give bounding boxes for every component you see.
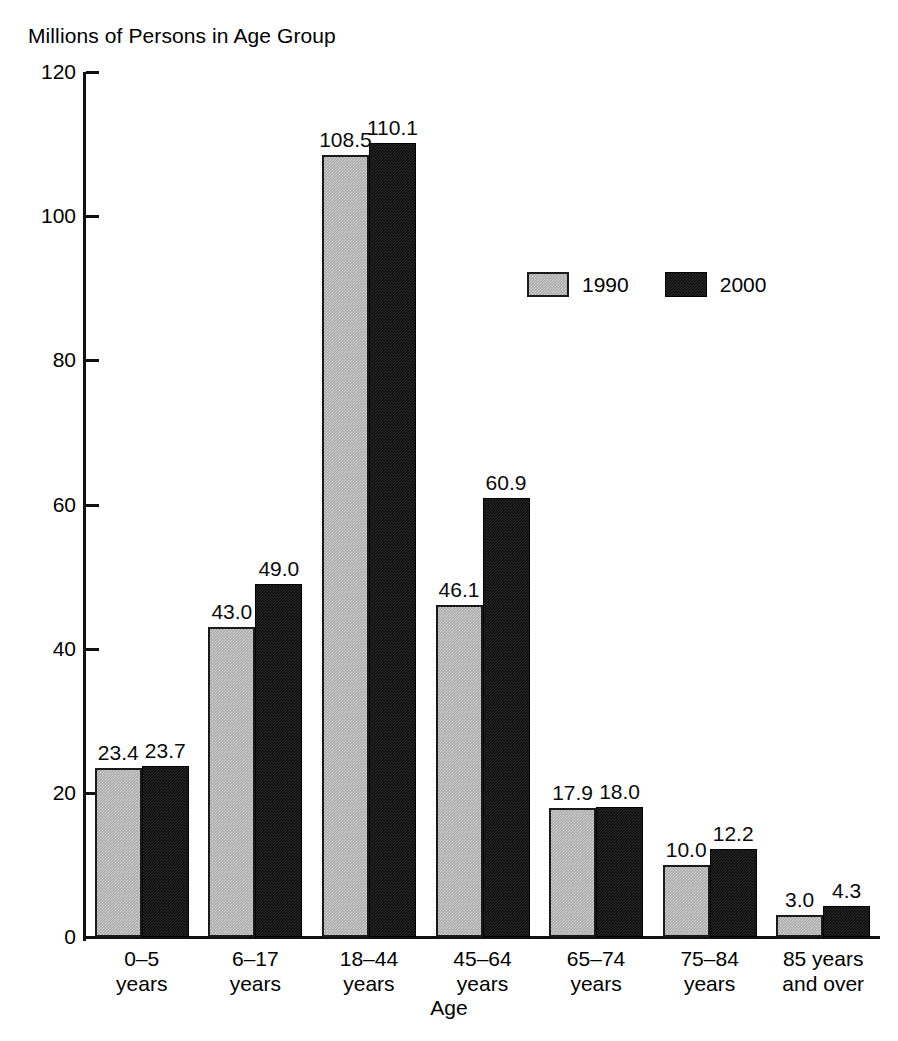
y-axis-tick — [86, 71, 99, 74]
y-axis-tick-label: 40 — [53, 638, 76, 659]
bar-value-label: 23.7 — [125, 740, 205, 762]
y-axis-tick-label-wrap: 80 — [0, 349, 76, 371]
x-axis-category-label-line-2: years — [653, 971, 767, 996]
x-axis-category-label-line-2: years — [312, 971, 426, 996]
bar-value-label: 110.1 — [352, 117, 432, 139]
gray-swatch — [527, 272, 569, 297]
y-axis-tick — [86, 504, 99, 507]
x-axis-category-label: 75–84years — [653, 946, 767, 996]
bar-1990-2 — [322, 155, 369, 937]
bar-value-label: 18.0 — [580, 781, 660, 803]
x-axis-category-label-line-1: 0–5 — [85, 946, 199, 971]
y-axis-tick-label: 20 — [53, 782, 76, 803]
bar-value-label: 60.9 — [466, 472, 546, 494]
bar-chart: Millions of Persons in Age Group 0204060… — [0, 0, 898, 1041]
x-axis-category-label: 0–5years — [85, 946, 199, 996]
x-axis-category-label: 65–74years — [539, 946, 653, 996]
x-axis-category-label-line-2: years — [426, 971, 540, 996]
x-axis-category-label: 45–64years — [426, 946, 540, 996]
y-axis-tick — [86, 215, 99, 218]
bar-2000-3 — [483, 498, 530, 937]
y-axis-tick-label: 80 — [53, 349, 76, 370]
bar-1990-4 — [549, 808, 596, 937]
bar-2000-1 — [255, 584, 302, 937]
y-axis-tick-label-wrap: 60 — [0, 494, 76, 516]
y-axis-tick — [86, 359, 99, 362]
y-axis-tick-label-wrap: 20 — [0, 782, 76, 804]
x-axis-category-label-line-1: 6–17 — [199, 946, 313, 971]
x-axis-category-label-line-2: years — [539, 971, 653, 996]
x-axis-category-label-line-2: and over — [766, 971, 880, 996]
x-axis-category-label-line-1: 65–74 — [539, 946, 653, 971]
x-axis-category-label-line-1: 45–64 — [426, 946, 540, 971]
bar-1990-3 — [436, 605, 483, 937]
legend-label: 1990 — [582, 274, 629, 295]
x-axis-category-label: 18–44years — [312, 946, 426, 996]
bar-1990-1 — [208, 627, 255, 937]
y-axis-tick-label-wrap: 120 — [0, 61, 76, 83]
bar-2000-0 — [142, 766, 189, 937]
x-axis-category-label: 6–17years — [199, 946, 313, 996]
x-axis-category-label: 85 yearsand over — [766, 946, 880, 996]
x-axis-category-label-line-1: 85 years — [766, 946, 880, 971]
bar-value-label: 12.2 — [693, 823, 773, 845]
y-axis-line — [83, 72, 86, 941]
bar-1990-6 — [776, 915, 823, 937]
y-axis-tick-label: 120 — [41, 61, 76, 82]
y-axis-tick-label: 100 — [41, 205, 76, 226]
bar-2000-4 — [596, 807, 643, 937]
bar-2000-6 — [823, 906, 870, 937]
bar-2000-2 — [369, 143, 416, 937]
bar-value-label: 4.3 — [807, 880, 887, 902]
y-axis-tick-label-wrap: 0 — [0, 926, 76, 948]
y-axis-tick-label-wrap: 40 — [0, 638, 76, 660]
legend-label: 2000 — [720, 274, 767, 295]
y-axis-tick-label: 0 — [64, 926, 76, 947]
x-axis-category-label-line-2: years — [85, 971, 199, 996]
bar-1990-0 — [95, 768, 142, 937]
x-axis-title: Age — [0, 996, 898, 1020]
y-axis-tick-label: 60 — [53, 494, 76, 515]
x-axis-category-label-line-1: 18–44 — [312, 946, 426, 971]
x-axis-category-label-line-2: years — [199, 971, 313, 996]
bar-value-label: 49.0 — [239, 558, 319, 580]
y-axis-tick-label-wrap: 100 — [0, 205, 76, 227]
black-swatch — [665, 272, 707, 297]
bar-1990-5 — [663, 865, 710, 937]
y-axis-tick — [86, 648, 99, 651]
chart-legend: 19902000 — [527, 272, 766, 297]
x-axis-category-label-line-1: 75–84 — [653, 946, 767, 971]
legend-item-2000[interactable]: 2000 — [665, 272, 767, 297]
bar-2000-5 — [710, 849, 757, 937]
legend-item-1990[interactable]: 1990 — [527, 272, 629, 297]
chart-title: Millions of Persons in Age Group — [28, 24, 336, 48]
